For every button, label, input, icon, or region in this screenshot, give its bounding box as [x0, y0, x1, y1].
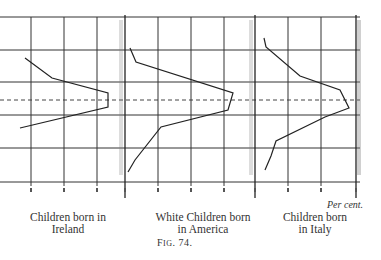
caption-america-line2: in America	[143, 223, 263, 235]
caption-ireland-line1: Children born in	[18, 211, 118, 223]
caption-america: White Children born in America	[143, 211, 263, 235]
horizontal-gridlines	[0, 17, 360, 182]
caption-america-line1: White Children born	[143, 211, 263, 223]
per-cent-label: Per cent.	[327, 199, 363, 210]
caption-italy-line1: Children born	[270, 211, 360, 223]
pyramid-chart	[0, 0, 381, 200]
vertical-gridlines	[31, 17, 321, 186]
fig-smallcaps: IG	[163, 239, 172, 248]
fig-suffix: . 74.	[173, 237, 193, 248]
caption-ireland: Children born in Ireland	[18, 211, 118, 235]
caption-italy-line2: in Italy	[270, 223, 360, 235]
america-curve	[128, 48, 233, 172]
caption-ireland-line2: Ireland	[18, 223, 118, 235]
percent-tick-labels	[30, 188, 357, 192]
age-label-ticks	[119, 20, 361, 175]
caption-italy: Children born in Italy	[270, 211, 360, 235]
italy-curve	[264, 38, 349, 170]
figure-label: FIG. 74.	[157, 237, 193, 248]
